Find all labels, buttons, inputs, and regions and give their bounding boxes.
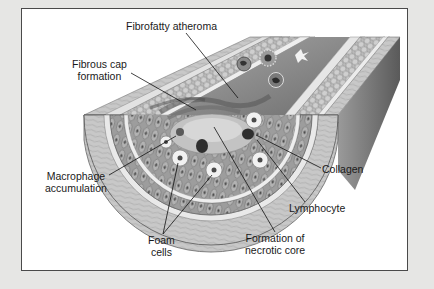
label-necrotic-core: Formation of necrotic core [245,232,305,256]
label-lymphocyte: Lymphocyte [289,202,345,214]
label-macrophage-accumulation: Macrophage accumulation [45,170,107,194]
label-fibrofatty-atheroma: Fibrofatty atheroma [126,20,217,32]
artery-illustration [0,0,434,289]
label-fibrous-cap-formation: Fibrous cap formation [72,58,127,82]
label-foam-cells: Foam cells [148,234,175,258]
label-collagen: Collagen [322,163,363,175]
